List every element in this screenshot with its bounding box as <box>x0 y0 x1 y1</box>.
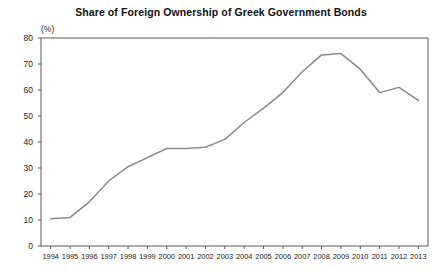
y-tick-label: 80 <box>7 34 33 43</box>
x-tick-label: 2013 <box>405 253 431 260</box>
y-tick-label: 20 <box>7 190 33 199</box>
y-tick-label: 50 <box>7 112 33 121</box>
y-tick-label: 0 <box>7 242 33 251</box>
y-tick-label: 30 <box>7 164 33 173</box>
y-tick-label: 40 <box>7 138 33 147</box>
y-tick-label: 10 <box>7 216 33 225</box>
y-tick-label: 70 <box>7 60 33 69</box>
y-tick-label: 60 <box>7 86 33 95</box>
chart-figure: Share of Foreign Ownership of Greek Gove… <box>0 0 442 272</box>
axis-frame <box>41 38 428 246</box>
data-series-line <box>51 54 419 219</box>
plot-area <box>0 0 442 272</box>
